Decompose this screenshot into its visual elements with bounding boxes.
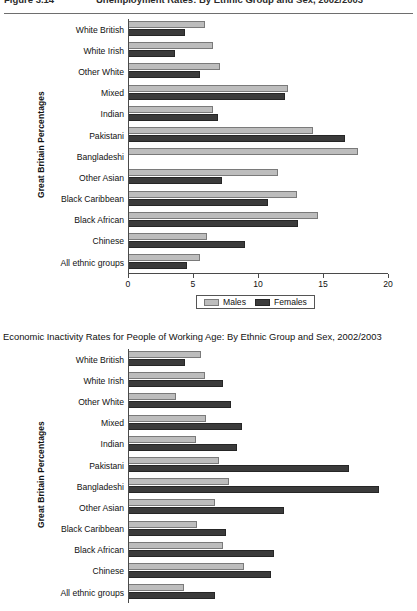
bar-females — [128, 114, 218, 121]
bar-females — [128, 550, 274, 557]
bar-males — [128, 415, 206, 422]
category-label: Other Asian — [0, 503, 128, 513]
chart-page: Figure 3.14 Unemployment Rates: By Ethni… — [0, 0, 417, 611]
category-label: Black African — [0, 215, 128, 225]
chart2-title: Economic Inactivity Rates for People of … — [3, 331, 382, 342]
legend-swatch-females — [255, 299, 270, 306]
bar-females — [128, 50, 175, 57]
bar-males — [128, 21, 205, 28]
chart-row: White Irish — [0, 40, 417, 61]
bar-group — [128, 40, 417, 61]
bar-group — [128, 455, 417, 476]
bar-males — [128, 191, 297, 198]
bar-group — [128, 252, 417, 273]
bar-females — [128, 93, 285, 100]
bar-group — [128, 146, 417, 167]
x-axis-tick — [128, 274, 129, 278]
category-label: Other White — [0, 397, 128, 407]
bar-males — [128, 233, 207, 240]
bar-males — [128, 127, 313, 134]
chart-row: Black African — [0, 210, 417, 231]
chart-row: Black Caribbean — [0, 189, 417, 210]
bar-females — [128, 220, 298, 227]
category-label: Mixed — [0, 418, 128, 428]
chart-row: White British — [0, 349, 417, 370]
bar-females — [128, 380, 223, 387]
category-label: All ethnic groups — [0, 588, 128, 598]
chart-row: White Irish — [0, 370, 417, 391]
category-label: Black Caribbean — [0, 194, 128, 204]
legend-item: Males — [204, 297, 246, 307]
bar-females — [128, 359, 185, 366]
category-label: All ethnic groups — [0, 258, 128, 268]
x-axis-tick — [323, 274, 324, 278]
bar-group — [128, 210, 417, 231]
bar-males — [128, 436, 196, 443]
chart-row: Indian — [0, 434, 417, 455]
bar-females — [128, 241, 245, 248]
bar-females — [128, 465, 349, 472]
x-axis-tick — [388, 274, 389, 278]
bar-males — [128, 148, 358, 155]
chart-row: Black Caribbean — [0, 519, 417, 540]
bar-group — [128, 189, 417, 210]
bar-group — [128, 519, 417, 540]
bar-males — [128, 212, 318, 219]
bar-males — [128, 254, 200, 261]
bar-group — [128, 61, 417, 82]
bar-males — [128, 393, 176, 400]
bar-females — [128, 71, 200, 78]
chart-row: White British — [0, 19, 417, 40]
x-axis-tick-label: 5 — [178, 279, 208, 289]
bar-males — [128, 63, 220, 70]
chart-row: Other White — [0, 61, 417, 82]
chart-row: Pakistani — [0, 455, 417, 476]
chart-row: Other Asian — [0, 497, 417, 518]
chart-row: Mixed — [0, 413, 417, 434]
bar-females — [128, 177, 222, 184]
bar-females — [128, 29, 185, 36]
chart-row: Bangladeshi — [0, 476, 417, 497]
bar-group — [128, 125, 417, 146]
bar-group — [128, 476, 417, 497]
category-label: Indian — [0, 439, 128, 449]
bar-females — [128, 444, 237, 451]
bar-males — [128, 478, 229, 485]
chart-unemployment: Great Britain Percentages White BritishW… — [0, 0, 417, 280]
bar-males — [128, 351, 201, 358]
chart-row: Other Asian — [0, 167, 417, 188]
bar-males — [128, 584, 184, 591]
bar-males — [128, 169, 278, 176]
chart-row: Mixed — [0, 83, 417, 104]
chart-legend: MalesFemales — [196, 295, 315, 309]
category-label: Other Asian — [0, 173, 128, 183]
bar-females — [128, 135, 345, 142]
x-axis-tick-label: 10 — [243, 279, 273, 289]
legend-swatch-males — [204, 299, 219, 306]
bar-group — [128, 582, 417, 603]
chart-row: Pakistani — [0, 125, 417, 146]
category-label: Pakistani — [0, 131, 128, 141]
legend-label: Males — [223, 297, 246, 307]
chart-economic-inactivity: Economic Inactivity Rates for People of … — [0, 331, 417, 585]
category-label: White British — [0, 25, 128, 35]
category-label: Chinese — [0, 236, 128, 246]
bar-females — [128, 592, 215, 599]
bar-males — [128, 42, 213, 49]
bar-males — [128, 563, 244, 570]
bar-group — [128, 83, 417, 104]
bar-males — [128, 499, 215, 506]
x-axis-tick — [193, 274, 194, 278]
legend-label: Females — [274, 297, 307, 307]
bar-females — [128, 529, 226, 536]
x-axis-tick-label: 15 — [308, 279, 338, 289]
legend-item: Females — [255, 297, 307, 307]
category-label: Mixed — [0, 88, 128, 98]
category-label: Indian — [0, 109, 128, 119]
x-axis-tick-label: 20 — [373, 279, 403, 289]
bar-males — [128, 106, 213, 113]
bar-males — [128, 457, 219, 464]
bar-males — [128, 85, 288, 92]
bar-group — [128, 434, 417, 455]
chart-unemployment-plot: Great Britain Percentages White BritishW… — [0, 19, 417, 299]
